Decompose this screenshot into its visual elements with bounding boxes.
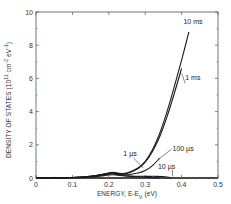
x-tick-label: 0.3 (140, 181, 150, 188)
y-axis-label: DENSITY OF STATES (1011 cm-2 eV-1) (3, 42, 13, 158)
curve-label: 100 µs (173, 145, 195, 153)
x-tick-label: 0.5 (213, 181, 223, 188)
y-axis-ticks: 0246810 (25, 9, 218, 182)
y-tick-label: 10 (25, 9, 33, 16)
x-axis-label: ENERGY, E-EV (eV) (97, 190, 157, 200)
density-of-states-chart: 00.10.20.30.40.5 0246810 10 ms1 ms100 µs… (0, 0, 231, 204)
curve-10-ms (36, 32, 189, 178)
x-tick-label: 0.4 (177, 181, 187, 188)
y-tick-label: 0 (29, 175, 33, 182)
curve-label: 1 µs (123, 150, 137, 158)
curve-label: 1 ms (185, 74, 201, 81)
x-axis-ticks: 00.10.20.30.40.5 (34, 12, 223, 188)
x-tick-label: 0.1 (68, 181, 78, 188)
curve-labels: 10 ms1 ms100 µs10 µs1 µs (123, 18, 203, 177)
y-tick-label: 2 (29, 141, 33, 148)
curve-label: 10 ms (183, 18, 203, 25)
x-tick-label: 0 (34, 181, 38, 188)
y-tick-label: 6 (29, 75, 33, 82)
x-tick-label: 0.2 (104, 181, 114, 188)
leader-1us (134, 158, 144, 168)
curves (36, 32, 189, 178)
leader-100us (158, 149, 172, 160)
y-tick-label: 8 (29, 42, 33, 49)
curve-1-ms (36, 68, 182, 178)
curve-label: 10 µs (158, 163, 176, 171)
curve-100-us (36, 158, 160, 178)
y-tick-label: 4 (29, 108, 33, 115)
